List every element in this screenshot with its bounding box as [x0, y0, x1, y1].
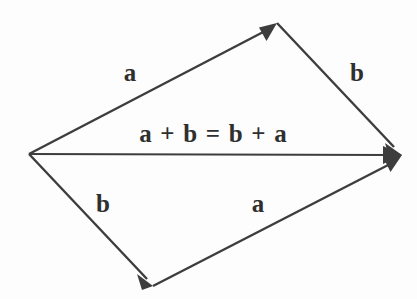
label-vector-a-lower-right: a	[252, 191, 265, 216]
vector-b-lower-left	[29, 154, 153, 290]
label-vector-b-upper-right: b	[350, 60, 364, 85]
vector-diagram-canvas	[0, 0, 417, 299]
equation-term-b2: b	[229, 120, 243, 147]
vector-a-upper-arrowhead	[259, 23, 277, 41]
equation-operator-equals: =	[204, 120, 222, 147]
vector-b-upper-right	[277, 23, 402, 159]
equation-term-a1: a	[139, 120, 152, 147]
equation-operator-plus-2: +	[249, 120, 267, 147]
vector-b-upper-right-shaft	[277, 23, 394, 147]
vector-a-lower-right-shaft	[153, 162, 394, 286]
vector-a-lower-right	[153, 155, 402, 286]
equation-term-a2: a	[274, 120, 287, 147]
label-vector-b-lower-left: b	[96, 191, 110, 216]
vector-addition-diagram: a b b a a + b = b + a	[0, 0, 417, 299]
equation-term-b1: b	[183, 120, 197, 147]
vector-sum-resultant-shaft	[29, 154, 390, 155]
label-vector-a-upper: a	[124, 60, 137, 85]
vector-sum-resultant	[29, 146, 402, 164]
equation-operator-plus-1: +	[158, 120, 176, 147]
label-equation-commutativity: a + b = b + a	[139, 121, 287, 146]
vector-b-lower-left-shaft	[29, 154, 147, 279]
